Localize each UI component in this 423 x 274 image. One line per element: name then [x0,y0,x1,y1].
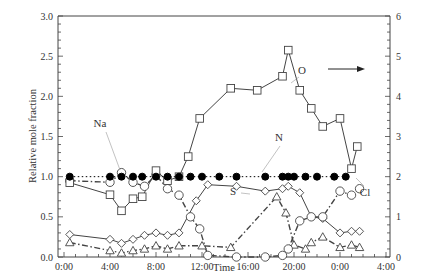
marker-open-circle [186,213,194,221]
x-axis-title: Time [213,262,235,273]
x-tick-label: 0:00 [55,261,73,272]
markers-o [66,46,361,214]
arrow-head-icon [357,66,365,72]
annotation-leader [262,146,280,172]
marker-open-square [118,207,126,215]
marker-filled-circle [187,173,194,180]
marker-filled-circle [302,173,309,180]
x-tick-label: 0:00 [331,261,349,272]
y2-tick-label: 3 [396,131,401,142]
x-tick-label: 4:00 [377,261,395,272]
marker-open-diamond [296,189,304,197]
marker-open-diamond [348,227,356,235]
y2-tick-label: 5 [396,51,401,62]
marker-filled-circle [118,173,125,180]
marker-open-square [319,123,327,131]
marker-open-diamond [204,181,212,189]
annotation-n: N [275,131,283,143]
x-tick-label: 4:00 [101,261,119,272]
marker-open-circle [175,191,183,199]
y-tick-label: 1.0 [41,171,54,182]
marker-open-square [184,153,192,161]
marker-open-circle [140,182,148,190]
series-line [70,197,360,253]
marker-filled-circle [342,173,349,180]
y-axis-title: Relative mole fraction [27,88,38,183]
marker-open-circle [204,251,212,259]
marker-filled-circle [233,173,240,180]
marker-open-square [307,105,315,113]
y-tick-label: 0.0 [41,252,54,263]
marker-open-square [353,143,361,151]
marker-open-square [227,85,235,93]
marker-filled-circle [262,173,269,180]
marker-filled-circle [164,173,171,180]
y2-tick-label: 2 [396,171,401,182]
annotation-s: S [230,185,236,197]
x-tick-label: 16:00 [237,261,260,272]
marker-open-circle [163,185,171,193]
x-tick-label: 20:00 [283,261,306,272]
marker-open-diamond [164,231,172,239]
y-tick-label: 1.5 [41,131,54,142]
marker-filled-circle [153,173,160,180]
marker-open-triangle [319,233,327,240]
annotation-o: O [298,64,306,76]
marker-open-circle [232,253,240,261]
annotation-na: Na [94,117,107,129]
y2-tick-label: 6 [396,11,401,22]
marker-open-diamond [106,235,114,243]
marker-open-diamond [152,229,160,237]
marker-open-square [348,165,356,173]
marker-filled-circle [291,173,298,180]
marker-filled-circle [216,173,223,180]
markers-s [66,193,364,257]
marker-open-circle [296,217,304,225]
marker-open-triangle [307,238,315,245]
marker-open-triangle [273,193,281,200]
marker-open-circle [307,213,315,221]
series-o [70,50,358,211]
marker-open-triangle [282,209,290,216]
marker-open-circle [284,245,292,253]
marker-open-square [253,87,261,95]
series-s [70,197,360,253]
x-tick-label: 8:00 [147,261,165,272]
marker-open-square [129,195,137,203]
marker-filled-circle [130,173,137,180]
marker-open-triangle [66,238,74,245]
marker-filled-circle [314,173,321,180]
marker-open-diamond [192,197,200,205]
marker-open-circle [196,225,204,233]
x-tick-label: 12:00 [191,261,214,272]
y2-tick-label: 1 [396,211,401,222]
marker-open-diamond [66,231,74,239]
marker-open-square [296,87,304,95]
marker-open-circle [319,213,327,221]
marker-open-circle [261,253,269,261]
annotation-leader [241,193,250,194]
y2-tick-label: 0 [396,252,401,263]
marker-filled-circle [331,173,338,180]
markers-na [66,173,349,180]
marker-open-triangle [347,241,355,248]
axis-ticks: 0.00.51.01.52.02.53.001234560:004:008:00… [41,11,402,273]
data-series [66,46,364,261]
annotation-cl: Cl [360,186,370,198]
annotation-leader [106,132,120,170]
marker-filled-circle [107,173,114,180]
marker-open-square [196,115,204,123]
marker-open-circle [336,187,344,195]
marker-open-square [106,191,114,199]
marker-open-triangle [152,242,160,249]
y-tick-label: 2.0 [41,91,54,102]
chart: 0.00.51.01.52.02.53.001234560:004:008:00… [0,0,423,274]
marker-open-square [336,115,344,123]
marker-filled-circle [176,173,183,180]
marker-open-diamond [261,187,269,195]
marker-open-square [284,46,292,54]
marker-open-diamond [141,231,149,239]
y-tick-label: 2.5 [41,51,54,62]
marker-filled-circle [199,173,206,180]
y-tick-label: 3.0 [41,11,54,22]
